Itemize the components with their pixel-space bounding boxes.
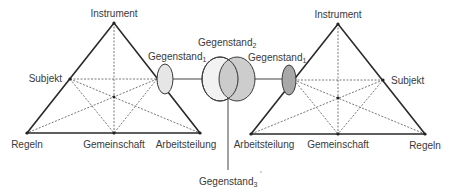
shared-object-overlap — [202, 57, 255, 101]
right-object-ellipse — [282, 65, 296, 95]
left-label-arbeitsteilung: Arbeitsteilung — [156, 139, 217, 150]
right-dashed-object-regeln — [294, 80, 425, 134]
left-label-instrument: Instrument — [90, 8, 137, 19]
right-label-instrument: Instrument — [314, 9, 361, 20]
left-dashed-object-regeln — [27, 79, 157, 133]
right-instrument-node — [336, 22, 339, 25]
right-gemeinschaft-node — [336, 132, 339, 135]
right-subjekt-node — [381, 78, 384, 81]
left-gemeinschaft-node — [112, 131, 115, 134]
right-label-gemeinschaft: Gemeinschaft — [307, 139, 369, 150]
activity-system-diagram: Instrument Subjekt Regeln Gemeinschaft A… — [0, 0, 454, 196]
left-instrument-node — [112, 21, 115, 24]
emergent-object-label: Gegenstand3 — [199, 176, 258, 188]
left-arbeitsteilung-node — [198, 131, 201, 134]
stray-dot — [260, 171, 262, 173]
left-regeln-node — [25, 131, 28, 134]
right-label-subjekt: Subjekt — [391, 75, 425, 86]
left-center-node — [113, 96, 116, 99]
left-object-label: Gegenstand1 — [148, 51, 207, 63]
left-label-gemeinschaft: Gemeinschaft — [83, 139, 145, 150]
right-regeln-node — [423, 132, 426, 135]
right-dashed-object-gemeinschaft — [294, 80, 338, 134]
right-center-node — [337, 97, 340, 100]
shared-object-right-circle — [219, 57, 255, 101]
left-subjekt-node — [68, 77, 71, 80]
left-label-regeln: Regeln — [11, 139, 43, 150]
right-object-label: Gegenstand1 — [248, 52, 307, 64]
left-label-subjekt: Subjekt — [29, 73, 63, 84]
right-label-arbeitsteilung: Arbeitsteilung — [234, 139, 295, 150]
left-object-ellipse — [157, 64, 173, 94]
shared-object-label: Gegenstand2 — [198, 37, 257, 49]
right-dashed-subjekt-arbeitsteilung — [251, 80, 383, 134]
right-arbeitsteilung-node — [249, 132, 252, 135]
right-label-regeln: Regeln — [409, 140, 441, 151]
left-dashed-subjekt-arbeitsteilung — [70, 79, 200, 133]
